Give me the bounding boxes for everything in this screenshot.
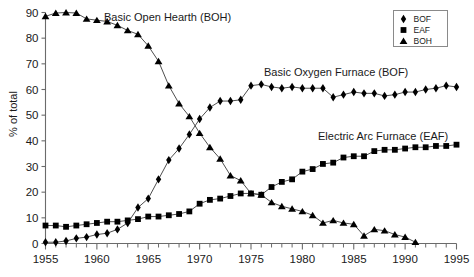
data-point-eaf [413,144,419,150]
data-point-boh [370,226,378,232]
data-point-eaf [186,209,192,215]
data-point-boh [329,217,337,223]
data-point-bof [84,233,89,241]
data-point-eaf [248,191,254,197]
series-boh [42,9,420,245]
data-point-eaf [443,143,449,149]
data-point-eaf [279,179,285,185]
y-tick-label: 70 [26,58,39,70]
annotation-eaf: Electric Arc Furnace (EAF) [318,130,448,142]
data-point-eaf [84,221,90,227]
x-tick-label: 1985 [341,253,367,265]
x-tick-label: 1970 [187,253,213,265]
data-point-bof [423,85,428,93]
data-point-eaf [320,161,326,167]
y-tick-label: 60 [26,84,39,96]
data-point-eaf [176,211,182,217]
data-point-bof [382,92,387,100]
data-point-bof [310,84,315,92]
data-point-eaf [289,176,295,182]
data-point-eaf [228,193,234,199]
data-point-eaf [207,197,213,203]
data-point-bof [279,84,284,92]
data-point-boh [196,130,204,136]
data-point-boh [237,177,245,183]
data-point-eaf [217,196,223,202]
data-point-bof [94,230,99,238]
data-point-bof [228,97,233,105]
series-line-bof [46,84,457,242]
data-point-eaf [433,143,439,149]
data-point-eaf [454,142,460,148]
y-tick-label: 90 [26,7,39,19]
data-point-bof [104,229,109,237]
data-point-bof [402,88,407,96]
data-point-eaf [361,153,367,159]
data-point-boh [185,113,193,119]
data-point-eaf [104,219,110,225]
y-axis-ticks: 0102030405060708090 [26,7,46,250]
data-point-boh [206,144,214,150]
data-point-eaf [125,218,131,224]
data-point-eaf [371,148,377,154]
data-point-eaf [135,216,141,222]
y-tick-label: 80 [26,32,39,44]
data-point-eaf [269,184,275,190]
series-line-eaf [46,145,457,227]
axes-group [46,13,457,244]
legend-marker-eaf [401,27,407,33]
legend-label-eaf: EAF [414,25,431,35]
series-line-boh [46,13,416,243]
y-tick-label: 30 [26,161,39,173]
data-point-boh [165,82,173,88]
data-point-boh [278,203,286,209]
annotation-bof: Basic Oxygen Furnace (BOF) [264,66,408,78]
y-tick-label: 0 [32,238,38,250]
data-point-boh [175,100,183,106]
data-point-bof [331,93,336,101]
data-point-bof [74,234,79,242]
series-eaf [43,142,460,230]
x-tick-label: 1965 [135,253,161,265]
data-point-bof [361,89,366,97]
data-point-bof [300,84,305,92]
data-point-bof [351,88,356,96]
data-point-eaf [43,223,49,229]
data-point-eaf [258,192,264,198]
data-point-bof [289,83,294,91]
data-point-bof [444,81,449,89]
y-tick-label: 20 [26,186,39,198]
data-point-bof [372,89,377,97]
data-point-eaf [341,155,347,161]
data-point-eaf [392,147,398,153]
annotation-boh: Basic Open Hearth (BOH) [104,11,231,23]
y-tick-label: 50 [26,109,39,121]
data-point-bof [207,103,212,111]
x-tick-label: 1960 [84,253,110,265]
data-point-bof [454,83,459,91]
x-tick-label: 1975 [238,253,264,265]
data-point-eaf [73,223,79,229]
data-point-eaf [299,169,305,175]
data-point-bof [320,84,325,92]
data-point-eaf [330,160,336,166]
chart-plot-area: 0102030405060708090 19551960196519701975… [0,0,474,277]
y-tick-label: 40 [26,135,39,147]
data-point-boh [83,15,91,21]
data-point-boh [124,27,132,33]
data-point-eaf [145,214,151,220]
x-axis-ticks: 195519601965197019751980198519901995 [33,244,470,265]
data-point-bof [53,238,58,246]
data-point-bof [115,225,120,233]
data-point-eaf [63,224,69,230]
data-point-bof [269,83,274,91]
x-tick-label: 1990 [392,253,418,265]
data-point-eaf [94,220,100,226]
data-point-eaf [197,201,203,207]
data-point-boh [309,212,317,218]
data-point-bof [43,238,48,246]
y-tick-label: 10 [26,212,39,224]
data-point-boh [412,239,420,245]
chart-legend: BOFEAFBOH [394,11,448,47]
data-point-eaf [166,212,172,218]
